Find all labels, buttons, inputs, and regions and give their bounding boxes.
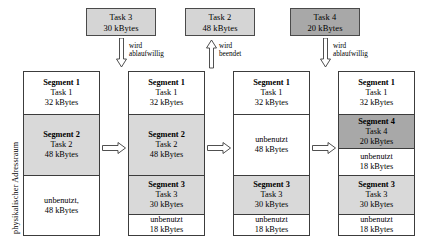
arrow-up-task2-terminates [206, 40, 215, 69]
block-size: 48 kBytes [24, 150, 99, 160]
block-label: unbenutzt [339, 152, 414, 162]
arrow-label-task3-becomes-ready: wird ablaufwillig [129, 42, 164, 59]
block-title: Segment 2 [24, 130, 99, 140]
memory-block-segment1: Segment 1 Task 1 32 kBytes [339, 72, 414, 115]
transition-arrow-3-to-4 [312, 142, 336, 154]
block-size: 30 kBytes [129, 200, 204, 210]
block-title: Segment 1 [129, 78, 204, 88]
memory-block-segment3: Segment 3 Task 3 30 kBytes [339, 176, 414, 215]
memory-state-3: Segment 1 Task 1 32 kBytes unbenutzt 48 … [233, 71, 310, 236]
arrow-label-task4-line2: ablaufwillig [333, 50, 368, 58]
transition-arrow-1-to-2 [102, 142, 126, 154]
arrow-label-task3-line2: ablaufwillig [129, 50, 164, 58]
block-label: unbenutzt [129, 215, 204, 225]
block-size: 30 kBytes [234, 200, 309, 210]
memory-block-free-lower: unbenutzt 18 kBytes [234, 215, 309, 235]
memory-block-free-upper: unbenutzt 48 kBytes [234, 115, 309, 176]
block-task: Task 1 [129, 88, 204, 98]
block-size: 18 kBytes [129, 225, 204, 235]
transition-arrow-2-to-3 [207, 142, 231, 154]
arrow-label-task2-line1: wird [219, 42, 232, 50]
block-task: Task 3 [234, 190, 309, 200]
block-size: 32 kBytes [234, 98, 309, 108]
block-task: Task 3 [339, 190, 414, 200]
block-task: Task 2 [24, 140, 99, 150]
memory-block-segment1: Segment 1 Task 1 32 kBytes [24, 72, 99, 115]
event-task4-name: Task 4 [291, 12, 359, 23]
block-title: Segment 3 [129, 180, 204, 190]
block-task: Task 2 [129, 140, 204, 150]
event-task3-name: Task 3 [87, 12, 155, 23]
memory-block-segment4: Segment 4 Task 4 20 kBytes [339, 115, 414, 149]
event-task3-size: 30 kBytes [87, 23, 155, 34]
memory-block-free: unbenutzt, 48 kBytes [24, 176, 99, 235]
block-size: 32 kBytes [24, 98, 99, 108]
arrow-label-task3-line1: wird [129, 42, 142, 50]
block-task: Task 1 [234, 88, 309, 98]
memory-state-2: Segment 1 Task 1 32 kBytes Segment 2 Tas… [128, 71, 205, 236]
memory-block-segment3: Segment 3 Task 3 30 kBytes [234, 176, 309, 215]
memory-block-free: unbenutzt 18 kBytes [129, 215, 204, 235]
block-size: 48 kBytes [129, 150, 204, 160]
memory-block-free-upper: unbenutzt 18 kBytes [339, 149, 414, 176]
arrow-label-task4-line1: wird [333, 42, 346, 50]
block-label: unbenutzt [234, 135, 309, 145]
block-title: Segment 2 [129, 130, 204, 140]
block-title: Segment 1 [339, 78, 414, 88]
arrow-label-task2-terminates: wird beendet [219, 42, 241, 59]
block-title: Segment 1 [234, 78, 309, 88]
event-box-task3-arrives: Task 3 30 kBytes [86, 8, 156, 36]
event-box-task2-terminates: Task 2 48 kBytes [185, 8, 255, 36]
block-size: 32 kBytes [339, 98, 414, 108]
axis-caption-physical-address-space: physikalischer Adressraum [11, 142, 20, 234]
block-task: Task 4 [339, 127, 414, 137]
block-task: Task 1 [24, 88, 99, 98]
event-task4-size: 20 kBytes [291, 23, 359, 34]
diagram-canvas: physikalischer Adressraum Task 3 30 kByt… [0, 0, 426, 247]
block-title: Segment 3 [339, 180, 414, 190]
arrow-label-task4-becomes-ready: wird ablaufwillig [333, 42, 368, 59]
block-size: 18 kBytes [339, 162, 414, 172]
arrow-down-task3-becomes-ready [116, 38, 125, 68]
memory-block-segment2: Segment 2 Task 2 48 kBytes [129, 115, 204, 176]
block-size: 32 kBytes [129, 98, 204, 108]
event-task2-name: Task 2 [186, 12, 254, 23]
block-title: Segment 4 [339, 117, 414, 127]
memory-block-segment1: Segment 1 Task 1 32 kBytes [129, 72, 204, 115]
block-title: Segment 1 [24, 78, 99, 88]
block-size: 20 kBytes [339, 137, 414, 147]
block-size: 18 kBytes [234, 225, 309, 235]
block-label: unbenutzt, [24, 196, 99, 206]
event-task2-size: 48 kBytes [186, 23, 254, 34]
block-task: Task 1 [339, 88, 414, 98]
block-task: Task 3 [129, 190, 204, 200]
arrow-label-task2-line2: beendet [219, 50, 241, 58]
memory-block-segment1: Segment 1 Task 1 32 kBytes [234, 72, 309, 115]
block-size: 18 kBytes [339, 225, 414, 235]
block-size: 30 kBytes [339, 200, 414, 210]
block-size: 48 kBytes [234, 145, 309, 155]
memory-block-segment3: Segment 3 Task 3 30 kBytes [129, 176, 204, 215]
block-size: 48 kBytes [24, 206, 99, 216]
memory-state-4: Segment 1 Task 1 32 kBytes Segment 4 Tas… [338, 71, 415, 236]
memory-block-segment2: Segment 2 Task 2 48 kBytes [24, 115, 99, 176]
memory-state-1: Segment 1 Task 1 32 kBytes Segment 2 Tas… [23, 71, 100, 236]
block-label: unbenutzt [339, 215, 414, 225]
block-title: Segment 3 [234, 180, 309, 190]
event-box-task4-arrives: Task 4 20 kBytes [290, 8, 360, 36]
memory-block-free-lower: unbenutzt 18 kBytes [339, 215, 414, 235]
arrow-down-task4-becomes-ready [320, 38, 329, 68]
block-label: unbenutzt [234, 215, 309, 225]
